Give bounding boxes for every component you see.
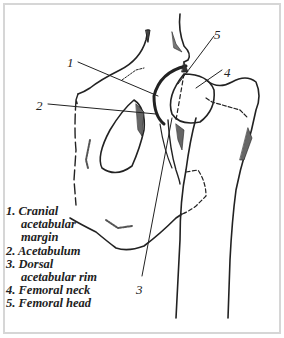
pubis-shading xyxy=(86,140,90,168)
femoral-neck-lower xyxy=(176,118,196,318)
callout-5: 5 xyxy=(214,27,221,43)
iliac-blade-outline xyxy=(180,14,190,62)
legend-item-5: 5. Femoral head xyxy=(6,297,97,310)
pelvis-contour xyxy=(74,94,78,205)
ischium-shading xyxy=(176,124,184,150)
femoral-neck-upper xyxy=(206,78,259,318)
callout-2: 2 xyxy=(36,98,43,114)
iliac-shading-2 xyxy=(122,68,144,80)
leader-line-3 xyxy=(142,118,172,276)
obturator-shading xyxy=(136,104,144,136)
acetabular-rim xyxy=(154,66,186,124)
lesser-trochanter xyxy=(182,170,206,214)
legend: 1. Cranial acetabular margin 2. Acetabul… xyxy=(6,205,97,311)
legend-item-1-cont: margin xyxy=(6,231,97,244)
ischial-shading xyxy=(106,220,132,228)
trochanter-shading xyxy=(240,128,252,160)
ilium-outline xyxy=(78,30,148,94)
leader-line-1 xyxy=(78,62,158,96)
legend-item-2: 2. Acetabulum xyxy=(6,245,97,258)
callout-1: 1 xyxy=(67,55,74,71)
callout-3: 3 xyxy=(136,282,143,298)
callout-4: 4 xyxy=(224,65,231,81)
